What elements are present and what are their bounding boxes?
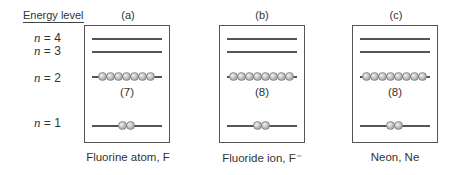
n2-electron-count: (7) [85,86,169,98]
level-line-n3 [92,51,162,53]
level-line-n4 [360,38,430,40]
n1-electrons [353,121,437,130]
level-value: = 1 [41,116,61,130]
panel-neon: (8) [352,25,438,143]
level-line-n4 [92,38,162,40]
level-label-n3: n = 3 [34,43,61,59]
panel-fluoride-ion: (8) [219,25,305,143]
n2-electrons [353,72,437,81]
level-line-n3 [360,51,430,53]
energy-level-axis-title: Energy level [23,9,84,23]
level-value: = 2 [41,71,61,85]
panel-a-letter: (a) [84,9,172,21]
panel-fluorine-atom: (7) [84,25,170,143]
level-line-n4 [227,38,297,40]
panel-b-caption: Fluoride ion, F⁻ [202,151,322,165]
electron-icon [394,121,403,130]
n2-electron-count: (8) [220,86,304,98]
n1-electrons [85,121,169,130]
electron-icon [261,121,270,130]
level-label-n1: n = 1 [34,115,61,131]
electron-icon [285,72,294,81]
electron-icon [418,72,427,81]
panel-c-letter: (c) [352,9,440,21]
panel-a-caption: Fluorine atom, F [68,151,188,163]
panel-b-letter: (b) [218,9,306,21]
n2-electron-count: (8) [353,86,437,98]
electron-icon [146,72,155,81]
n2-electrons [85,72,169,81]
level-value: = 3 [41,44,61,58]
level-label-n2: n = 2 [34,70,61,86]
level-line-n3 [227,51,297,53]
panel-c-caption: Neon, Ne [335,151,455,163]
n1-electrons [220,121,304,130]
electron-icon [126,121,135,130]
n2-electrons [220,72,304,81]
